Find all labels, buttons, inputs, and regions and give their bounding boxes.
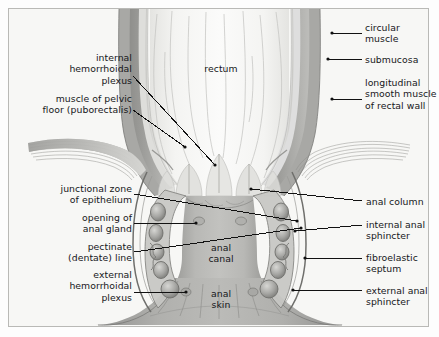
label-external-anal-sphincter: external anal sphincter [366,285,439,308]
leader-endpoint-internal-anal-sphincter [293,229,296,232]
leader-endpoint-longitudinal-smooth-muscle-of-rectal-wall [330,97,333,100]
leader-endpoint-fibroelastic-septum [303,256,306,259]
leader-endpoint-opening-of-anal-gland [194,221,197,224]
label-anal-skin: anal skin [198,288,244,311]
label-circular-muscle: circular muscle [365,22,435,45]
label-external-hemorrhoidal-plexus: external hemorrhoidal plexus [46,269,132,303]
label-internal-anal-sphincter: internal anal sphincter [366,219,439,242]
label-rectum: rectum [190,63,252,74]
anal-canal-body [176,196,263,282]
leader-endpoint-anal-column [249,187,252,190]
label-muscle-of-pelvic-floor: muscle of pelvic floor (puborectalis) [14,93,132,116]
label-junctional-zone-of-epithelium: junctional zone of epithelium [22,183,132,206]
leader-endpoint-external-anal-sphincter [291,288,294,291]
leader-endpoint-external-hemorrhoidal-plexus [184,290,187,293]
leader-endpoint-circular-muscle [330,31,333,34]
label-longitudinal-smooth-muscle-of-rectal-wall: longitudinal smooth muscle of rectal wal… [365,77,439,111]
anatomy-figure: internal hemorrhoidal plexusmuscle of pe… [0,0,439,337]
label-anal-canal: anal canal [198,242,244,265]
label-submucosa: submucosa [365,54,435,65]
label-pectinate-dentate-line: pectinate (dentate) line [32,241,132,264]
leader-endpoint-internal-hemorrhoidal-plexus [213,163,216,166]
leader-endpoint-pectinate-dentate-line [299,226,302,229]
label-opening-of-anal-gland: opening of anal gland [40,212,132,235]
label-fibroelastic-septum: fibroelastic septum [366,252,439,275]
leader-endpoint-muscle-of-pelvic-floor [183,145,186,148]
label-anal-column: anal column [366,196,439,207]
leader-endpoint-submucosa [326,57,329,60]
leader-endpoint-junctional-zone-of-epithelium [295,219,298,222]
label-internal-hemorrhoidal-plexus: internal hemorrhoidal plexus [48,52,132,86]
